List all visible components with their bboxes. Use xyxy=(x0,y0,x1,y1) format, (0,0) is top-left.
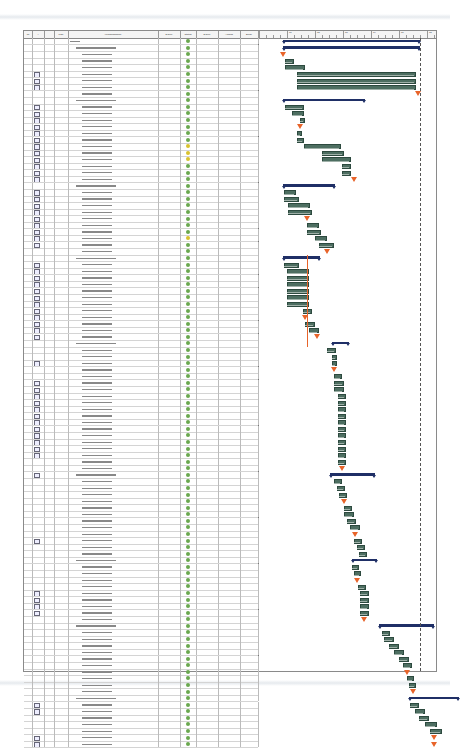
cell-dauer xyxy=(196,715,219,721)
task-name-text xyxy=(82,671,112,672)
milestone-marker[interactable] xyxy=(280,52,286,57)
column-header-dur_pct[interactable]: Dauer xyxy=(158,31,181,38)
cell-dur_pct xyxy=(158,367,181,373)
summary-bar[interactable] xyxy=(283,40,421,43)
cell-dauer xyxy=(196,445,219,451)
cell-status xyxy=(180,242,197,248)
cell-dauer xyxy=(196,708,219,714)
summary-bar[interactable] xyxy=(352,559,377,562)
cell-end xyxy=(240,590,259,596)
milestone-marker[interactable] xyxy=(361,617,367,622)
cell-start xyxy=(218,702,241,708)
status-check-icon xyxy=(186,716,190,720)
cell-name xyxy=(68,143,159,149)
milestone-marker[interactable] xyxy=(297,124,303,129)
timeline-tick xyxy=(301,35,302,39)
timeline-tick xyxy=(273,35,274,39)
cell-status xyxy=(180,176,197,182)
task-name-text xyxy=(82,284,112,285)
cell-dauer xyxy=(196,268,219,274)
milestone-marker[interactable] xyxy=(410,689,416,694)
column-header-end[interactable]: Ende xyxy=(240,31,259,38)
summary-bar[interactable] xyxy=(283,184,336,187)
cell-end xyxy=(240,268,259,274)
status-check-icon xyxy=(186,79,190,83)
column-header-start[interactable]: Anfang xyxy=(218,31,241,38)
cell-dauer xyxy=(196,294,219,300)
column-header-status[interactable]: Status xyxy=(180,31,197,38)
cell-end xyxy=(240,360,259,366)
milestone-marker[interactable] xyxy=(331,367,337,372)
milestone-marker[interactable] xyxy=(304,216,310,221)
cell-dur_pct xyxy=(158,550,181,556)
cell-start xyxy=(218,629,241,635)
status-check-icon xyxy=(186,657,190,661)
cell-dur_pct xyxy=(158,577,181,583)
summary-bar[interactable] xyxy=(283,99,366,102)
milestone-marker[interactable] xyxy=(351,177,357,182)
task-name-text xyxy=(82,212,112,213)
cell-start xyxy=(218,334,241,340)
cell-start xyxy=(218,386,241,392)
task-name-text xyxy=(82,323,112,324)
milestone-row[interactable] xyxy=(24,741,258,748)
status-check-icon xyxy=(186,545,190,549)
column-header-name[interactable]: Vorgangsname xyxy=(68,31,159,38)
cell-status xyxy=(180,261,197,267)
summary-bar[interactable] xyxy=(283,46,421,49)
cell-dur_pct xyxy=(158,77,181,83)
cell-start xyxy=(218,183,241,189)
milestone-marker[interactable] xyxy=(431,735,437,740)
milestone-marker[interactable] xyxy=(324,249,330,254)
task-name-text xyxy=(82,54,112,55)
milestone-marker[interactable] xyxy=(352,532,358,537)
column-header-dauer[interactable]: Dauer xyxy=(196,31,219,38)
summary-bar[interactable] xyxy=(332,342,350,345)
task-name-text xyxy=(82,87,112,88)
column-header-psp[interactable]: PSP xyxy=(54,31,69,38)
cell-start xyxy=(218,301,241,307)
cell-end xyxy=(240,183,259,189)
cell-psp xyxy=(54,176,69,182)
milestone-marker[interactable] xyxy=(354,578,360,583)
cell-dur_pct xyxy=(158,373,181,379)
milestone-marker[interactable] xyxy=(404,670,410,675)
cell-start xyxy=(218,728,241,734)
milestone-marker[interactable] xyxy=(431,742,437,747)
cell-name xyxy=(68,656,159,662)
cell-name xyxy=(68,169,159,175)
cell-status xyxy=(180,222,197,228)
task-name-text xyxy=(82,553,112,554)
cell-start xyxy=(218,557,241,563)
milestone-marker[interactable] xyxy=(341,499,347,504)
milestone-marker[interactable] xyxy=(314,334,320,339)
cell-start xyxy=(218,288,241,294)
cell-dur_pct xyxy=(158,91,181,97)
summary-bar[interactable] xyxy=(330,473,375,476)
cell-start xyxy=(218,268,241,274)
cell-start xyxy=(218,498,241,504)
baseline-bar xyxy=(338,397,344,398)
cell-status xyxy=(180,472,197,478)
cell-psp xyxy=(54,524,69,530)
cell-end xyxy=(240,347,259,353)
status-check-icon xyxy=(186,499,190,503)
status-check-icon xyxy=(186,729,190,733)
cell-end xyxy=(240,71,259,77)
task-name-text xyxy=(76,258,116,259)
cell-status xyxy=(180,248,197,254)
status-check-icon xyxy=(186,381,190,385)
cell-dauer xyxy=(196,577,219,583)
milestone-marker[interactable] xyxy=(339,466,345,471)
baseline-bar xyxy=(332,358,336,359)
cell-end xyxy=(240,373,259,379)
summary-bar[interactable] xyxy=(379,624,434,627)
summary-bar[interactable] xyxy=(283,256,321,259)
status-check-icon xyxy=(186,309,190,313)
summary-bar[interactable] xyxy=(409,697,459,700)
cell-status xyxy=(180,373,197,379)
status-check-icon xyxy=(186,624,190,628)
baseline-bar xyxy=(344,509,350,510)
cell-name xyxy=(68,636,159,642)
cell-end xyxy=(240,334,259,340)
